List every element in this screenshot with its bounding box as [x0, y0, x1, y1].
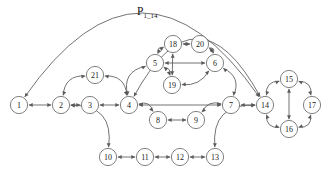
node-circle-4 — [120, 96, 137, 113]
nodes-layer: 123456789101112131415161718192021 — [10, 35, 320, 165]
edge-16-14-arrowhead-end — [266, 115, 270, 119]
edge-18-19-arrowhead-end — [170, 71, 174, 75]
graph-node-21[interactable]: 21 — [86, 66, 103, 83]
edge-2-21 — [63, 76, 85, 96]
edge-14-15-arrowhead-end — [275, 81, 279, 85]
edge-21-4-arrowhead-start — [105, 75, 109, 79]
graph-node-2[interactable]: 2 — [52, 96, 69, 113]
edge-5-19-arrowhead-end — [167, 71, 171, 75]
node-circle-6 — [206, 54, 223, 71]
node-circle-8 — [149, 111, 166, 128]
edge-1-2-arrowhead-end — [47, 103, 51, 107]
graph-node-4[interactable]: 4 — [120, 96, 137, 113]
node-circle-14 — [256, 96, 273, 113]
edge-1-2-arrowhead-start — [29, 103, 33, 107]
node-circle-19 — [163, 76, 180, 93]
graph-node-6[interactable]: 6 — [206, 54, 223, 71]
graph-canvas: 123456789101112131415161718192021 P1_14 — [0, 0, 332, 177]
edge-8-9-arrowhead-end — [182, 118, 186, 122]
edge-2-21-arrowhead-end — [81, 75, 85, 79]
node-circle-2 — [52, 96, 69, 113]
graph-node-10[interactable]: 10 — [99, 148, 116, 165]
edge-21-4 — [105, 76, 127, 96]
graph-node-18[interactable]: 18 — [164, 35, 181, 52]
edge-5-6-arrowhead-start — [165, 61, 169, 65]
node-circle-16 — [280, 120, 297, 137]
edge-1-14-outer-arrowhead-start — [25, 93, 29, 97]
edge-1-14-outer — [25, 13, 260, 97]
node-circle-20 — [191, 35, 208, 52]
node-circle-13 — [206, 148, 223, 165]
edge-19-6-arrowhead-start — [182, 82, 186, 86]
graph-node-17[interactable]: 17 — [303, 96, 320, 113]
graph-node-15[interactable]: 15 — [280, 70, 297, 87]
node-circle-5 — [146, 54, 163, 71]
graph-node-16[interactable]: 16 — [280, 120, 297, 137]
graph-node-3[interactable]: 3 — [81, 96, 98, 113]
diagram-title: P1_14 — [137, 5, 158, 20]
edge-2-10-arrowhead-end — [107, 143, 111, 147]
edge-7-14-arrowhead-start — [241, 103, 245, 107]
edge-12-13-arrowhead-start — [190, 155, 194, 159]
edge-16-14-arrowhead-start — [275, 124, 279, 128]
edge-13-14-arrowhead-start — [213, 143, 217, 147]
edge-17-16-arrowhead-end — [299, 124, 303, 128]
node-circle-3 — [81, 96, 98, 113]
node-circle-18 — [164, 35, 181, 52]
graph-node-9[interactable]: 9 — [187, 111, 204, 128]
graph-node-5[interactable]: 5 — [146, 54, 163, 71]
edge-2-21-arrowhead-start — [63, 91, 67, 95]
graph-node-12[interactable]: 12 — [171, 148, 188, 165]
graph-node-14[interactable]: 14 — [256, 96, 273, 113]
edge-18-20-arrowhead-end — [186, 42, 190, 46]
edge-3-4-arrowhead-end — [115, 103, 119, 107]
node-circle-15 — [280, 70, 297, 87]
edge-11-12-arrowhead-start — [155, 155, 159, 159]
edge-4-5-arrowhead-end — [141, 66, 145, 70]
node-circle-9 — [187, 111, 204, 128]
node-circle-12 — [171, 148, 188, 165]
edge-10-11-arrowhead-start — [118, 155, 122, 159]
graph-node-20[interactable]: 20 — [191, 35, 208, 52]
edge-6-7 — [223, 68, 236, 95]
edge-15-17-arrowhead-start — [299, 81, 303, 85]
graph-diagram-root: 123456789101112131415161718192021 P1_14 — [0, 0, 332, 177]
node-circle-21 — [86, 66, 103, 83]
graph-node-13[interactable]: 13 — [206, 148, 223, 165]
edge-18-19-arrowhead-start — [171, 54, 175, 58]
node-circle-10 — [99, 148, 116, 165]
node-circle-11 — [136, 148, 153, 165]
edge-19-6 — [182, 71, 209, 85]
edge-12-13-arrowhead-end — [201, 155, 205, 159]
edge-18-20-arrowhead-start — [183, 42, 187, 46]
graph-node-1[interactable]: 1 — [10, 96, 27, 113]
edge-4-8-arrowhead-end — [149, 107, 153, 111]
edge-15-16-arrowhead-start — [287, 89, 291, 93]
graph-node-19[interactable]: 19 — [163, 76, 180, 93]
node-circle-7 — [222, 96, 239, 113]
edge-8-9-arrowhead-start — [168, 118, 172, 122]
graph-node-7[interactable]: 7 — [222, 96, 239, 113]
graph-node-11[interactable]: 11 — [136, 148, 153, 165]
edge-10-11-arrowhead-end — [131, 155, 135, 159]
edge-3-4-arrowhead-start — [100, 103, 104, 107]
edge-15-16-arrowhead-end — [287, 115, 291, 119]
node-circle-17 — [303, 96, 320, 113]
edge-11-12-arrowhead-end — [166, 155, 170, 159]
node-circle-1 — [10, 96, 27, 113]
edge-5-6-arrowhead-end — [201, 61, 205, 65]
diagram-title-subscript: 1_14 — [143, 12, 158, 20]
graph-node-8[interactable]: 8 — [149, 111, 166, 128]
